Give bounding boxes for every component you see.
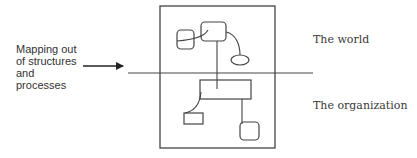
- mapping-label-line-3: and: [16, 67, 77, 79]
- world-node-ellipse: [231, 55, 249, 65]
- world-node-main: [201, 22, 226, 41]
- org-node-main: [200, 80, 251, 99]
- organization-label: The organization: [313, 99, 408, 112]
- mapping-label: Mapping out of structures and processes: [16, 43, 77, 91]
- mapping-label-line-4: processes: [16, 79, 77, 91]
- org-connector-to-small: [185, 92, 201, 113]
- world-connector-small-to-main: [177, 30, 208, 41]
- world-connector-main-to-ellipse: [226, 32, 240, 55]
- mapping-label-line-2: of structures: [16, 55, 77, 67]
- org-node-rounded: [240, 122, 259, 140]
- org-node-small: [184, 113, 203, 124]
- mapping-label-line-1: Mapping out: [16, 43, 77, 55]
- world-label: The world: [313, 33, 369, 46]
